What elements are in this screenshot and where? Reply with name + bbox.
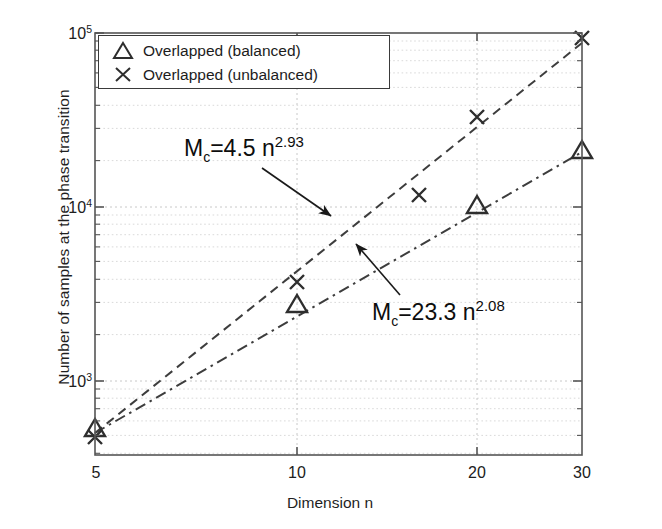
annotation-balanced-base: M xyxy=(372,299,391,325)
triangle-marker-icon xyxy=(109,39,139,63)
annotation-unbalanced-mid: =4.5 n xyxy=(210,135,275,161)
plot-background xyxy=(95,33,582,455)
legend-item-balanced: Overlapped (balanced) xyxy=(109,38,301,63)
legend-label-unbalanced: Overlapped (unbalanced) xyxy=(143,66,318,84)
annotation-fit-unbalanced: Mc=4.5 n2.93 xyxy=(184,133,304,165)
x-marker-icon xyxy=(109,63,139,87)
annotation-balanced-mid: =23.3 n xyxy=(398,299,475,325)
annotation-unbalanced-sup: 2.93 xyxy=(275,133,304,150)
legend-label-balanced: Overlapped (balanced) xyxy=(143,42,301,60)
annotation-balanced-sup: 2.08 xyxy=(476,297,505,314)
legend: Overlapped (balanced) Overlapped (unbala… xyxy=(98,35,390,89)
legend-item-unbalanced: Overlapped (unbalanced) xyxy=(109,62,318,87)
annotation-fit-balanced: Mc=23.3 n2.08 xyxy=(372,297,505,329)
figure-log-log-phase-transition: Number of samples at the phase transitio… xyxy=(0,0,662,529)
annotation-unbalanced-base: M xyxy=(184,135,203,161)
